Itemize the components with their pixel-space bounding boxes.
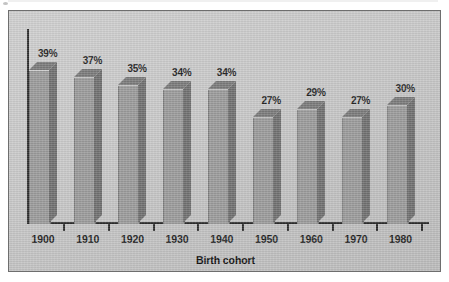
bar-front-face [163, 90, 185, 224]
bar-top-face [163, 81, 192, 90]
x-axis-title: Birth cohort [9, 254, 441, 266]
bar-1920 [118, 78, 147, 224]
bar-top-face [253, 109, 282, 118]
scan-artifact-speck [3, 2, 8, 5]
bar-1980 [387, 98, 416, 224]
screenshot-root: 39%37%35%34%34%27%29%27%30% 190019101920… [0, 0, 449, 282]
bar-value-label-1940: 34% [217, 67, 236, 78]
x-axis-tick [197, 224, 199, 231]
x-axis-tick [376, 224, 378, 231]
bar-front-face [342, 118, 364, 224]
bar-side-face [138, 77, 147, 224]
bar-top-face [29, 62, 58, 71]
bar-side-face [183, 81, 192, 224]
x-axis-tick [332, 224, 334, 231]
x-tick-label-1950: 1950 [245, 233, 289, 245]
bar-front-face [29, 71, 51, 224]
bar-front-face [297, 110, 319, 224]
bar-side-face [273, 109, 282, 224]
bar-value-label-1930: 34% [172, 67, 191, 78]
bar-value-label-1960: 29% [306, 87, 325, 98]
bar-1960 [297, 102, 326, 224]
bar-side-face [49, 62, 58, 224]
bar-value-label-1980: 30% [396, 83, 415, 94]
bar-1950 [253, 110, 282, 224]
x-axis-tick [287, 224, 289, 231]
bar-1970 [342, 110, 371, 224]
x-axis-tick [63, 224, 65, 231]
bar-front-face [118, 86, 140, 224]
x-axis-tick [108, 224, 110, 231]
x-axis-tick [242, 224, 244, 231]
x-tick-label-1920: 1920 [110, 233, 154, 245]
bar-1900 [29, 63, 58, 224]
x-tick-label-1970: 1970 [334, 233, 378, 245]
bar-front-face [387, 106, 409, 224]
x-tick-label-1980: 1980 [379, 233, 423, 245]
bar-value-label-1970: 27% [351, 95, 370, 106]
bar-top-face [74, 69, 103, 78]
bar-side-face [362, 109, 371, 224]
x-tick-label-1940: 1940 [200, 233, 244, 245]
x-axis-tick [153, 224, 155, 231]
x-tick-label-1930: 1930 [155, 233, 199, 245]
bar-top-face [342, 109, 371, 118]
x-tick-label-1960: 1960 [289, 233, 333, 245]
bar-value-label-1910: 37% [83, 55, 102, 66]
bar-front-face [253, 118, 275, 224]
bar-top-face [297, 101, 326, 110]
x-axis-tick [421, 224, 423, 231]
bar-side-face [94, 69, 103, 224]
bar-top-face [118, 77, 147, 86]
bar-side-face [228, 81, 237, 224]
bar-value-label-1920: 35% [127, 63, 146, 74]
bar-1910 [74, 70, 103, 224]
bar-1930 [163, 82, 192, 224]
bar-value-label-1950: 27% [262, 95, 281, 106]
x-tick-label-1900: 1900 [21, 233, 65, 245]
x-tick-label-1910: 1910 [66, 233, 110, 245]
bar-top-face [208, 81, 237, 90]
bar-front-face [74, 78, 96, 224]
bar-top-face [387, 97, 416, 106]
bar-side-face [317, 101, 326, 224]
plot-area: 39%37%35%34%34%27%29%27%30% 190019101920… [9, 11, 441, 272]
bar-value-label-1900: 39% [38, 48, 57, 59]
scan-top-edge [8, 0, 438, 2]
chart-panel: 39%37%35%34%34%27%29%27%30% 190019101920… [8, 10, 441, 272]
bar-1940 [208, 82, 237, 224]
bar-side-face [407, 97, 416, 224]
bar-front-face [208, 90, 230, 224]
